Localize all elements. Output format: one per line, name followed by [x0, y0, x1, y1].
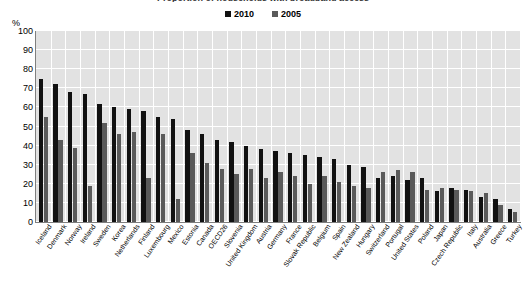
bar-2010 — [361, 167, 365, 222]
bar-2005 — [190, 153, 194, 222]
bar-group — [491, 31, 506, 222]
y-axis-tick-label: 10 — [23, 198, 33, 207]
bar-group — [461, 31, 476, 222]
legend-item-2005[interactable]: 2005 — [272, 10, 301, 19]
bar-2010 — [97, 104, 101, 222]
bar-group — [373, 31, 388, 222]
legend-label-2005: 2005 — [281, 10, 301, 19]
bar-2010 — [435, 191, 439, 222]
bar-2010 — [200, 134, 204, 222]
bar-group — [168, 31, 183, 222]
bar-2010 — [112, 107, 116, 222]
y-axis-tick-label: 20 — [23, 179, 33, 188]
x-axis-category-labels: IcelandDenmarkNorwayIrelandSwedenKoreaNe… — [36, 223, 520, 307]
bar-group — [359, 31, 374, 222]
legend-item-2010[interactable]: 2010 — [225, 10, 254, 19]
bar-2005 — [440, 188, 444, 222]
bar-2010 — [244, 146, 248, 222]
chart-title: Proportion of households with broadband … — [0, 0, 526, 2]
bar-group — [505, 31, 520, 222]
bar-2010 — [39, 79, 43, 222]
bar-group — [344, 31, 359, 222]
chart-legend: 2010 2005 — [0, 8, 526, 20]
bar-group — [197, 31, 212, 222]
bar-2010 — [171, 119, 175, 222]
bar-2010 — [405, 180, 409, 222]
bar-2010 — [229, 142, 233, 222]
bar-group — [227, 31, 242, 222]
bar-2010 — [493, 199, 497, 222]
bar-2010 — [273, 151, 277, 222]
bar-group — [183, 31, 198, 222]
bar-2005 — [234, 174, 238, 222]
bar-2010 — [127, 109, 131, 222]
bar-group — [212, 31, 227, 222]
y-axis-tick-labels: 0102030405060708090100 — [0, 31, 33, 222]
bar-2010 — [332, 159, 336, 222]
bar-2005 — [410, 172, 414, 222]
bar-2005 — [88, 186, 92, 222]
bar-2005 — [278, 172, 282, 222]
bar-chart: Proportion of households with broadband … — [0, 0, 526, 307]
bar-group — [51, 31, 66, 222]
bar-2010 — [449, 188, 453, 222]
bar-group — [300, 31, 315, 222]
bar-2005 — [425, 190, 429, 222]
bar-2005 — [337, 182, 341, 222]
y-axis-tick-label: 90 — [23, 46, 33, 55]
bar-2005 — [146, 178, 150, 222]
bar-2005 — [454, 190, 458, 222]
bar-2005 — [205, 163, 209, 222]
bar-2010 — [347, 165, 351, 222]
bar-2005 — [396, 170, 400, 222]
bar-2005 — [469, 191, 473, 222]
bar-2010 — [259, 149, 263, 222]
bar-group — [256, 31, 271, 222]
bar-2010 — [83, 94, 87, 222]
bar-2010 — [141, 111, 145, 222]
bar-group — [329, 31, 344, 222]
bar-2005 — [293, 176, 297, 222]
bar-group — [109, 31, 124, 222]
bar-2010 — [215, 140, 219, 222]
y-axis-tick-label: 50 — [23, 122, 33, 131]
bar-group — [271, 31, 286, 222]
y-axis-tick-label: 0 — [28, 218, 33, 227]
bar-2005 — [381, 172, 385, 222]
bar-2005 — [73, 148, 77, 222]
bar-group — [388, 31, 403, 222]
bar-2010 — [420, 178, 424, 222]
bar-2010 — [303, 155, 307, 222]
bar-2005 — [161, 134, 165, 222]
x-axis-category-label-text: Italy — [465, 223, 478, 238]
bar-2005 — [308, 184, 312, 222]
bar-group — [285, 31, 300, 222]
bar-group — [417, 31, 432, 222]
bars-layer — [36, 31, 520, 222]
bar-group — [403, 31, 418, 222]
bar-group — [241, 31, 256, 222]
bar-2010 — [185, 130, 189, 222]
legend-label-2010: 2010 — [234, 10, 254, 19]
bar-group — [476, 31, 491, 222]
bar-2010 — [156, 117, 160, 222]
legend-swatch-2005 — [272, 11, 278, 17]
bar-group — [139, 31, 154, 222]
y-axis-tick-label: 30 — [23, 160, 33, 169]
bar-2005 — [322, 176, 326, 222]
y-axis-tick-label: 60 — [23, 103, 33, 112]
y-axis-tick-label: 80 — [23, 65, 33, 74]
bar-group — [95, 31, 110, 222]
bar-2010 — [508, 209, 512, 222]
bar-2010 — [464, 190, 468, 222]
bar-2010 — [68, 92, 72, 222]
bar-2005 — [102, 123, 106, 222]
bar-2005 — [513, 212, 517, 222]
x-axis-category-label: Italy — [465, 223, 478, 238]
bar-group — [315, 31, 330, 222]
bar-group — [124, 31, 139, 222]
bar-2010 — [53, 84, 57, 222]
bar-group — [65, 31, 80, 222]
bar-2005 — [366, 188, 370, 222]
bar-2005 — [176, 199, 180, 222]
